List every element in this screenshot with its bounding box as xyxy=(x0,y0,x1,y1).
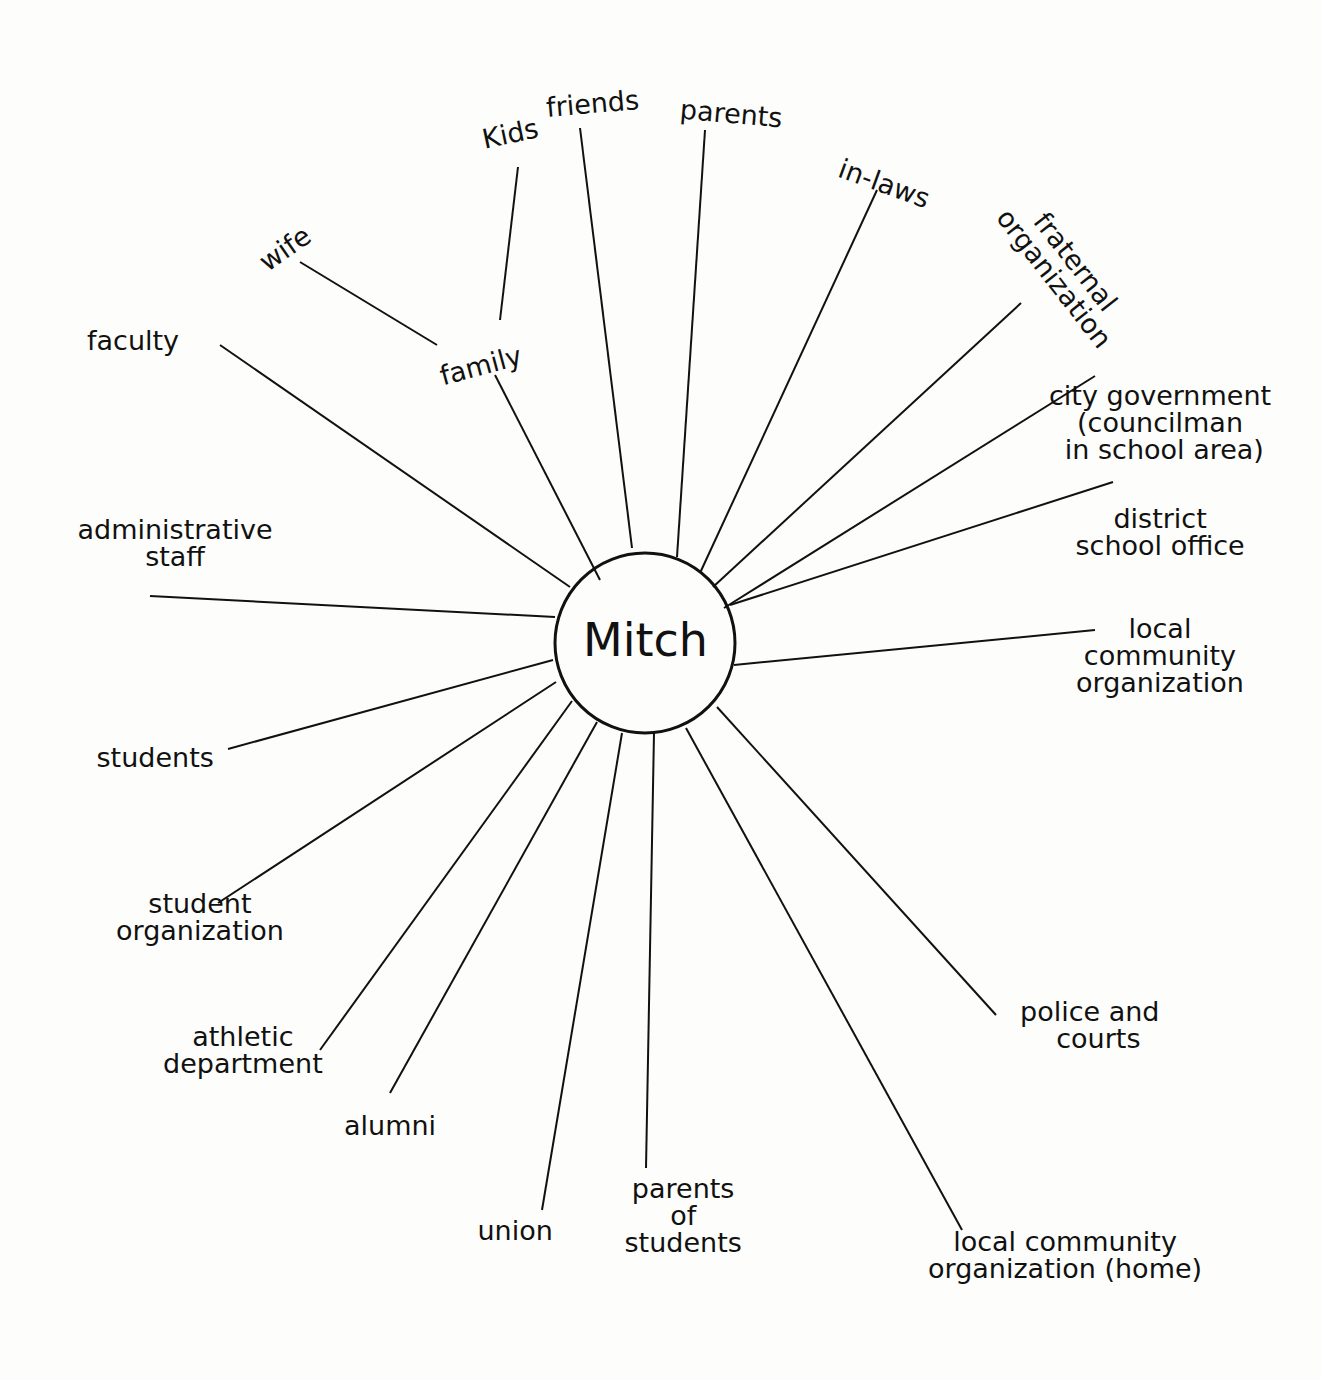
connector-local-comm-school xyxy=(734,630,1095,665)
diagram-canvas: Mitch familywifeKidsfriendsparentsin-law… xyxy=(0,0,1321,1380)
node-label-parents: parents xyxy=(679,95,784,131)
node-label-faculty: faculty xyxy=(87,327,179,354)
connector-parents-students xyxy=(646,733,654,1168)
connector-district xyxy=(730,482,1113,605)
node-label-alumni: alumni xyxy=(344,1112,436,1139)
node-label-police: police and courts xyxy=(1020,998,1160,1052)
node-label-local-comm-school: local community organization xyxy=(1076,615,1244,696)
node-label-city-gov: city government (councilman in school ar… xyxy=(1049,382,1271,463)
connector-parents xyxy=(677,130,705,557)
connector-kids xyxy=(500,167,518,320)
connector-students xyxy=(228,660,553,749)
node-label-student-org: student organization xyxy=(116,890,284,944)
node-label-athletic: athletic department xyxy=(163,1023,323,1077)
node-label-friends: friends xyxy=(545,85,640,120)
connector-city-gov xyxy=(724,376,1095,608)
connector-family xyxy=(495,375,600,580)
connector-local-comm-home xyxy=(686,728,962,1230)
node-label-admin: administrative staff xyxy=(78,516,273,570)
node-label-district: district school office xyxy=(1076,505,1245,559)
connector-in-laws xyxy=(700,190,877,573)
node-label-students: students xyxy=(97,744,214,771)
center-node-label: Mitch xyxy=(583,613,708,667)
connector-wife xyxy=(300,262,437,345)
connector-admin xyxy=(150,596,555,617)
node-label-parents-students: parents of students xyxy=(625,1175,742,1256)
node-label-local-comm-home: local community organization (home) xyxy=(928,1228,1202,1282)
node-label-union: union xyxy=(478,1217,553,1244)
connector-union xyxy=(542,733,622,1210)
connector-alumni xyxy=(390,722,597,1093)
connector-friends xyxy=(580,128,632,548)
